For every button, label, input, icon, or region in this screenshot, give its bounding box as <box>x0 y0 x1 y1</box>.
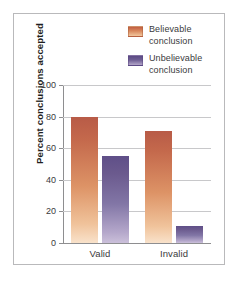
gridline-0 <box>63 243 211 244</box>
legend-label-unbelievable-line2: conclusion <box>149 65 193 75</box>
legend-label-believable-line2: conclusion <box>149 36 193 46</box>
y-tick-mark-20 <box>59 211 63 212</box>
y-tick-label-60: 60 <box>30 143 56 153</box>
legend-swatch-unbelievable-icon <box>128 55 143 66</box>
chart-legend: Believable conclusion Unbelievable concl… <box>128 24 224 82</box>
y-tick-label-20: 20 <box>30 206 56 216</box>
legend-label-believable: Believable conclusion <box>149 24 193 47</box>
legend-item-unbelievable: Unbelievable conclusion <box>128 53 224 76</box>
y-tick-mark-40 <box>59 180 63 181</box>
plot-area <box>63 85 211 243</box>
legend-label-unbelievable: Unbelievable conclusion <box>149 53 202 76</box>
figure-container: Believable conclusion Unbelievable concl… <box>0 0 239 284</box>
legend-item-believable: Believable conclusion <box>128 24 224 47</box>
y-tick-mark-0 <box>59 243 63 244</box>
x-label-valid: Valid <box>90 248 111 259</box>
gridline-100 <box>63 85 211 86</box>
y-tick-label-100: 100 <box>30 80 56 90</box>
x-label-invalid: Invalid <box>160 248 188 259</box>
legend-label-believable-line1: Believable <box>149 24 192 34</box>
y-tick-mark-80 <box>59 117 63 118</box>
bar-invalid-unbelievable <box>176 226 203 243</box>
y-tick-label-40: 40 <box>30 175 56 185</box>
y-axis-ticks: 020406080100 <box>28 85 56 243</box>
bar-valid-unbelievable <box>102 156 129 243</box>
x-axis-labels: ValidInvalid <box>63 248 211 264</box>
bar-valid-believable <box>71 117 98 243</box>
legend-label-unbelievable-line1: Unbelievable <box>149 53 202 63</box>
y-tick-mark-60 <box>59 148 63 149</box>
y-tick-mark-100 <box>59 85 63 86</box>
y-tick-label-80: 80 <box>30 112 56 122</box>
y-tick-label-0: 0 <box>30 238 56 248</box>
legend-swatch-believable-icon <box>128 26 143 37</box>
bar-invalid-believable <box>145 131 172 243</box>
